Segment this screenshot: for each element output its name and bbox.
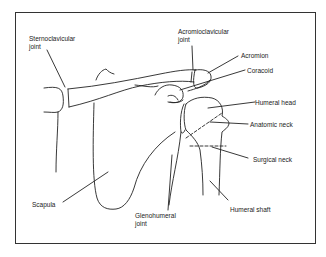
label-glenohumeral-joint: joint xyxy=(135,220,147,228)
label-sternoclavicular-joint: joint xyxy=(29,43,41,51)
label-sternoclavicular: Sternoclavicular xyxy=(29,35,75,43)
label-anatomic-neck: Anatomic neck xyxy=(250,121,293,129)
label-humeral-shaft: Humeral shaft xyxy=(230,206,270,214)
label-scapula: Scapula xyxy=(32,201,56,209)
sternum-outline xyxy=(44,87,63,112)
coracoid-outline xyxy=(155,85,183,103)
label-glenohumeral: Glenohumeral xyxy=(135,212,176,220)
label-surgical-neck: Surgical neck xyxy=(253,156,292,164)
label-acromioclavicular-joint: joint xyxy=(178,36,190,44)
label-coracoid: Coracoid xyxy=(247,67,273,75)
scapula-outline xyxy=(96,69,114,80)
label-acromion: Acromion xyxy=(241,52,268,60)
label-acromioclavicular: Acromioclavicular xyxy=(178,28,229,36)
label-humeral-head: Humeral head xyxy=(255,99,296,107)
